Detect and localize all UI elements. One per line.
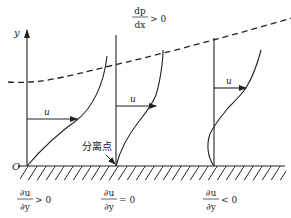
pressure-gradient-relation: > 0 bbox=[150, 14, 166, 24]
gradient-numerator-2: ∂u bbox=[104, 188, 115, 198]
pressure-gradient-denominator: dx bbox=[135, 20, 146, 30]
gradient-denominator-3: ∂y bbox=[206, 202, 217, 212]
velocity-label-2: u bbox=[130, 94, 136, 104]
separation-point-arrow bbox=[106, 155, 115, 164]
gradient-label-1: ∂u ∂y > 0 bbox=[17, 188, 51, 212]
velocity-profile-curve-3 bbox=[208, 50, 261, 166]
velocity-label-3: u bbox=[226, 76, 232, 86]
boundary-layer-edge-dashed-line bbox=[8, 18, 291, 82]
pressure-gradient-label: dp dx > 0 bbox=[132, 6, 166, 30]
gradient-label-2: ∂u ∂y = 0 bbox=[101, 188, 135, 212]
y-axis-label: y bbox=[13, 27, 20, 38]
gradient-numerator-1: ∂u bbox=[20, 188, 31, 198]
gradient-relation-2: = 0 bbox=[119, 195, 135, 205]
gradient-relation-1: > 0 bbox=[35, 195, 51, 205]
gradient-relation-3: < 0 bbox=[221, 195, 237, 205]
gradient-numerator-3: ∂u bbox=[206, 188, 217, 198]
origin-label: O bbox=[12, 161, 20, 172]
wall-hatching bbox=[18, 166, 286, 180]
separation-point-label: 分离点 bbox=[82, 140, 112, 152]
velocity-profile-2: u 分离点 bbox=[82, 35, 163, 166]
gradient-denominator-2: ∂y bbox=[104, 202, 115, 212]
boundary-layer-diagram: dp dx > 0 y O u u 分离点 u ∂u ∂y > 0 bbox=[0, 0, 291, 218]
gradient-label-3: ∂u ∂y < 0 bbox=[203, 188, 237, 212]
velocity-label-1: u bbox=[44, 107, 50, 117]
pressure-gradient-numerator: dp bbox=[134, 6, 146, 16]
velocity-profile-curve-2 bbox=[116, 50, 163, 166]
gradient-denominator-1: ∂y bbox=[20, 202, 31, 212]
velocity-profile-3: u bbox=[208, 38, 261, 166]
